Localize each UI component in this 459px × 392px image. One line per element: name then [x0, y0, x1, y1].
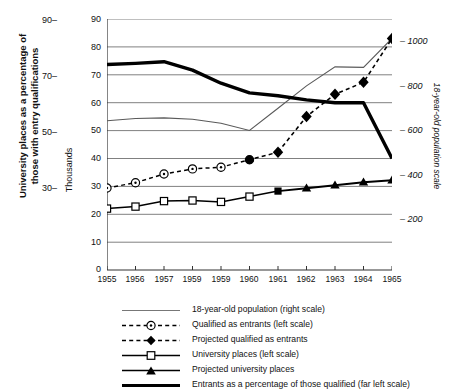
legend-row-projected-qualified: Projected qualified as entrants — [120, 333, 450, 348]
markers-projected-university-places — [274, 176, 392, 195]
legend-row-entrants-percentage: Entrants as a percentage of those qualif… — [120, 378, 450, 392]
right-tick-400-value: 400 — [408, 170, 423, 180]
series-entrants-percentage — [107, 62, 392, 159]
right-tick-600-value: 600 — [408, 125, 423, 135]
right-axis-title: 18-year-old population scale — [431, 51, 443, 221]
legend-key-thick-line — [120, 378, 182, 392]
right-tick-1000-value: 1000 — [408, 36, 428, 46]
legend-key-thin-line — [120, 303, 182, 318]
right-tick-200: – 200 — [400, 214, 423, 224]
right-tick-200-value: 200 — [408, 214, 423, 224]
plot-area — [107, 19, 392, 270]
left-tick-90: 90 — [83, 14, 101, 24]
chart-figure: University places as a percentage of tho… — [0, 0, 459, 392]
legend-label-projected-university-places: Projected university places — [192, 364, 294, 374]
legend-row-projected-university-places: Projected university places — [120, 363, 450, 378]
right-tick-400: – 400 — [400, 170, 423, 180]
legend-key-projected-places-marker — [120, 363, 182, 378]
left-tick-70: 70 — [83, 70, 101, 80]
chart-svg — [107, 19, 392, 274]
legend-label-qualified-as-entrants: Qualified as entrants (left scale) — [192, 319, 313, 329]
far-left-axis-title: University places as a percentage of tho… — [17, 26, 43, 206]
chart-legend: 18-year-old population (right scale) Qua… — [120, 303, 450, 392]
right-tick-800-value: 800 — [408, 81, 423, 91]
markers-university-places — [107, 193, 253, 212]
far-left-tick-70: 70– — [52, 71, 57, 81]
left-tick-0: 0 — [83, 264, 101, 274]
left-tick-20: 20 — [83, 209, 101, 219]
legend-label-projected-qualified: Projected qualified as entrants — [192, 334, 308, 344]
series-18yr-population — [107, 39, 392, 131]
left-tick-60: 60 — [83, 98, 101, 108]
far-left-tick-50: 50– — [52, 127, 57, 137]
legend-label-university-places: University places (left scale) — [192, 349, 299, 359]
right-tick-800: – 800 — [400, 81, 423, 91]
legend-row-18yr-population: 18-year-old population (right scale) — [120, 303, 450, 318]
legend-key-university-places-marker — [120, 348, 182, 363]
right-tick-1000: – 1000 — [400, 36, 428, 46]
right-tick-600: – 600 — [400, 125, 423, 135]
far-left-tick-30: 30– — [52, 183, 57, 193]
legend-key-projected-qualified-marker — [120, 333, 182, 348]
legend-label-entrants-percentage: Entrants as a percentage of those qualif… — [192, 379, 410, 389]
left-tick-50: 50 — [83, 125, 101, 135]
legend-row-qualified-as-entrants: Qualified as entrants (left scale) — [120, 318, 450, 333]
legend-key-qualified-marker — [120, 318, 182, 333]
axis-lines — [107, 19, 392, 270]
markers-projected-qualified — [245, 33, 392, 164]
left-tick-80: 80 — [83, 42, 101, 52]
legend-label-18yr-population: 18-year-old population (right scale) — [192, 304, 325, 314]
left-tick-30: 30 — [83, 181, 101, 191]
left-tick-10: 10 — [83, 237, 101, 247]
far-left-tick-90: 90– — [52, 15, 57, 25]
x-tick-10: 1965 — [375, 274, 409, 284]
left-tick-40: 40 — [83, 153, 101, 163]
legend-row-university-places: University places (left scale) — [120, 348, 450, 363]
left-axis-title: Thousands — [63, 125, 75, 215]
